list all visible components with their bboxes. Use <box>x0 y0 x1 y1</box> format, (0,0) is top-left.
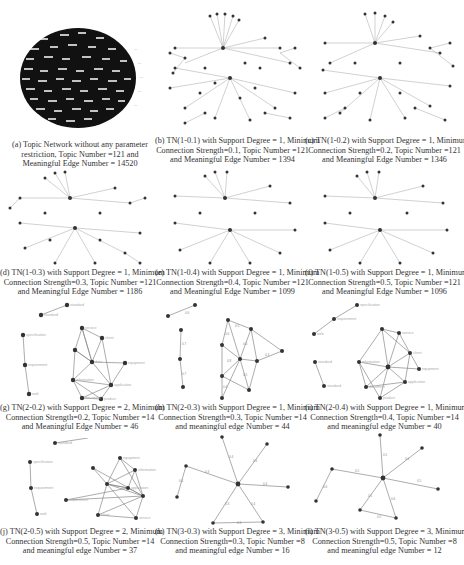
panel-g-network: standard standard specification requirem… <box>0 300 155 402</box>
caption-l-line-3: and meaningful edge Number = 12 <box>305 546 464 556</box>
svg-text:0.4: 0.4 <box>229 455 234 459</box>
caption-c-line-1: (c) TN(1-0.2) with Support Degree = 1, M… <box>305 136 464 146</box>
svg-text:—: — <box>134 103 137 107</box>
panel-j-network: standard specification requirement web e… <box>0 438 160 528</box>
panel-a-dense-network: ————— <box>0 20 160 140</box>
panel-i-network: specification requirement web standard s… <box>305 300 464 402</box>
network-graph-a: ————— <box>0 20 160 140</box>
caption-g-line-3: and Meaningful Edge Number = 46 <box>0 422 160 432</box>
caption-j: (j) TN(2-0.5) with Support Degree = 2, M… <box>0 527 160 556</box>
caption-k: (k) TN(3-0.3) with Support Degree = 3, M… <box>155 527 310 556</box>
caption-g-line-2: Connection Strength=0.2, Topic Number =1… <box>0 413 160 423</box>
panel-k-network: 0.40.60.30.4 0.30.40.30.4 <box>155 430 310 528</box>
svg-text:service: service <box>85 326 96 330</box>
svg-text:requirement: requirement <box>337 317 356 321</box>
network-graph-i: specification requirement web standard s… <box>305 300 464 402</box>
svg-text:web: web <box>32 392 39 396</box>
svg-text:product: product <box>383 396 395 400</box>
svg-text:—: — <box>140 75 143 79</box>
svg-text:application: application <box>131 486 148 490</box>
svg-text:standard: standard <box>327 384 341 388</box>
svg-text:data: data <box>95 360 102 364</box>
svg-text:0.5: 0.5 <box>235 324 240 328</box>
network-graph-g: standard standard specification requirem… <box>0 300 155 402</box>
caption-b-line-1: (b) TN(1-0.1) with Support Degree = 1, M… <box>155 136 310 146</box>
caption-h: (h) TN(2-0.3) with Support Degree = 1, M… <box>155 403 310 432</box>
svg-text:product: product <box>104 397 116 401</box>
svg-text:0.6: 0.6 <box>391 497 396 501</box>
svg-text:requirement: requirement <box>28 363 47 367</box>
panel-b-network <box>155 8 310 136</box>
caption-j-line-1: (j) TN(2-0.5) with Support Degree = 2, M… <box>0 527 160 537</box>
network-graph-j: standard specification requirement web e… <box>0 438 160 528</box>
svg-text:information: information <box>138 468 156 472</box>
caption-i: (i) TN(2-0.4) with Support Degree = 1, M… <box>305 403 464 432</box>
caption-h-line-1: (h) TN(2-0.3) with Support Degree = 1, M… <box>155 403 310 413</box>
svg-text:standard: standard <box>318 360 332 364</box>
svg-text:0.6: 0.6 <box>405 457 410 461</box>
svg-text:—: — <box>134 47 137 51</box>
network-graph-d <box>0 168 160 268</box>
network-graph-c <box>305 8 464 136</box>
caption-d: (d) TN(1-0.3) with Support Degree = 1, M… <box>0 268 160 297</box>
caption-f: (f) TN(1-0.5) with Support Degree = 1, M… <box>305 268 464 297</box>
svg-text:equipment: equipment <box>123 456 140 460</box>
svg-text:information: information <box>362 360 380 364</box>
caption-d-line-1: (d) TN(1-0.3) with Support Degree = 1, M… <box>0 268 160 278</box>
caption-c-line-3: and Meaningful Edge Number = 1346 <box>305 155 464 165</box>
caption-i-line-1: (i) TN(2-0.4) with Support Degree = 1, M… <box>305 403 464 413</box>
caption-a: (a) Topic Network without any parameter … <box>0 140 160 169</box>
svg-text:web: web <box>40 512 47 516</box>
svg-text:0.7: 0.7 <box>182 342 187 346</box>
svg-text:0.3: 0.3 <box>205 470 210 474</box>
svg-text:document: document <box>85 396 101 400</box>
svg-text:standard: standard <box>58 441 72 445</box>
panel-l-network: 0.50.60.50.5 0.50.60.60.5 <box>305 430 464 528</box>
svg-text:0.3: 0.3 <box>237 521 242 525</box>
panel-f-network <box>305 168 464 268</box>
svg-text:specification: specification <box>33 460 53 464</box>
caption-a-line-1: (a) Topic Network without any parameter <box>0 140 160 150</box>
svg-text:0.8: 0.8 <box>227 359 232 363</box>
svg-text:0.4: 0.4 <box>263 482 268 486</box>
caption-b-line-3: and Meaningful Edge Number = 1394 <box>155 155 310 165</box>
caption-b-line-2: Connection Strength=0.1, Topic Number =1… <box>155 146 310 156</box>
caption-e-line-1: (e) TN(1-0.4) with Support Degree = 1, M… <box>155 268 310 278</box>
caption-f-line-1: (f) TN(1-0.5) with Support Degree = 1, M… <box>305 268 464 278</box>
svg-text:0.6: 0.6 <box>225 332 230 336</box>
panel-e-network <box>155 168 310 268</box>
svg-text:0.3: 0.3 <box>265 353 270 357</box>
svg-text:application: application <box>114 383 131 387</box>
caption-e-line-3: and Meaningful Edge Number = 1099 <box>155 287 310 297</box>
svg-text:0.4: 0.4 <box>179 479 184 483</box>
svg-text:0.6: 0.6 <box>253 459 258 463</box>
svg-text:0.5: 0.5 <box>243 373 248 377</box>
caption-j-line-3: and meaningful edge Number = 37 <box>0 546 160 556</box>
caption-d-line-3: and Meaningful Edge Number = 1186 <box>0 287 160 297</box>
network-graph-l: 0.50.60.50.5 0.50.60.60.5 <box>305 430 464 528</box>
svg-text:specification: specification <box>360 303 380 307</box>
caption-f-line-2: Connection Strength=0.5, Topic Number =1… <box>305 278 464 288</box>
svg-text:0.4: 0.4 <box>243 342 248 346</box>
svg-text:—: — <box>138 61 141 65</box>
caption-f-line-3: and Meaningful Edge Number = 1096 <box>305 287 464 297</box>
svg-text:specification: specification <box>26 333 46 337</box>
caption-e: (e) TN(1-0.4) with Support Degree = 1, M… <box>155 268 310 297</box>
svg-text:0.6: 0.6 <box>185 311 190 315</box>
svg-text:service: service <box>139 516 150 520</box>
caption-c: (c) TN(1-0.2) with Support Degree = 1, M… <box>305 136 464 165</box>
svg-text:service: service <box>402 331 413 335</box>
caption-l-line-2: Connection Strength=0.5, Topic Number =8 <box>305 537 464 547</box>
caption-k-line-2: Connection Strength=0.3, Topic Number =8 <box>155 537 310 547</box>
network-graph-e <box>155 168 310 268</box>
svg-text:client: client <box>105 336 113 340</box>
svg-text:—: — <box>138 89 141 93</box>
svg-text:standard: standard <box>44 313 58 317</box>
svg-text:client: client <box>413 351 421 355</box>
svg-text:equipment: equipment <box>128 361 145 365</box>
caption-a-line-2: restriction, Topic Number =121 and <box>0 150 160 160</box>
caption-j-line-2: Connection Strength=0.5, Topic Number =1… <box>0 537 160 547</box>
svg-text:0.4: 0.4 <box>223 385 228 389</box>
caption-b: (b) TN(1-0.1) with Support Degree = 1, M… <box>155 136 310 165</box>
caption-d-line-2: Connection Strength=0.3, Topic Number =1… <box>0 278 160 288</box>
